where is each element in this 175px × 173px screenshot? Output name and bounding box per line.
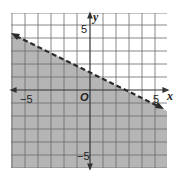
shaded-region <box>11 33 167 168</box>
y-axis-top-arrow-icon <box>88 13 92 18</box>
x-axis-label: x <box>166 89 173 103</box>
origin-label: O <box>80 91 89 103</box>
y-axis-label: y <box>91 10 99 24</box>
y-tick-pos5: 5 <box>81 23 87 35</box>
inequality-graph: y x O −5 5 5 −5 <box>0 0 175 173</box>
x-tick-neg5: −5 <box>20 93 33 105</box>
y-tick-neg5: −5 <box>77 150 90 162</box>
x-tick-pos5: 5 <box>153 93 159 105</box>
y-axis-bottom-arrow-icon <box>88 164 92 169</box>
